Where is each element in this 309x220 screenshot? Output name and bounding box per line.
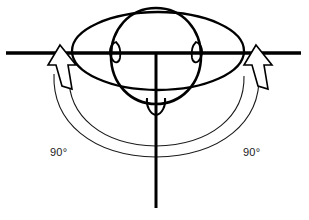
left-angle-label: 90° [50, 146, 67, 158]
shoulders-ellipse [72, 12, 244, 90]
right-angle-label: 90° [243, 146, 260, 158]
left-rotation-arc-inner [69, 76, 156, 146]
right-rotation-arc-inner [156, 76, 244, 146]
head-rotation-diagram: 90° 90° [0, 0, 309, 220]
diagram-canvas: 90° 90° [0, 0, 309, 220]
